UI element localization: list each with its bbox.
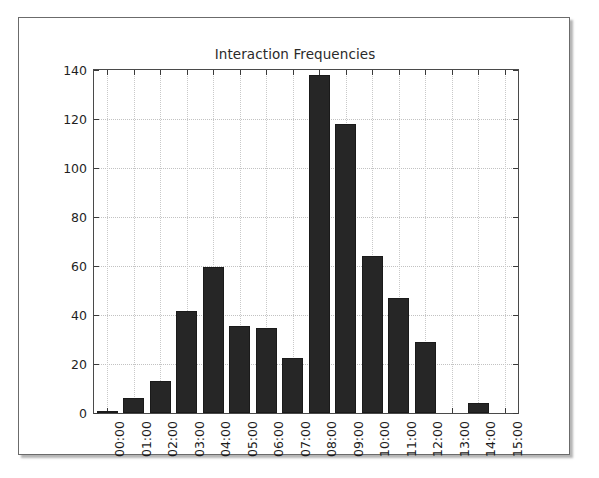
bar bbox=[97, 411, 118, 413]
plot-area: 020406080100120140 00:0001:0002:0003:000… bbox=[93, 69, 519, 414]
y-tick-mark-right bbox=[513, 266, 518, 267]
x-tick-mark-top bbox=[505, 70, 506, 75]
gridline-horizontal bbox=[94, 315, 518, 316]
x-tick-label: 03:00 bbox=[192, 421, 207, 457]
gridline-vertical bbox=[452, 70, 453, 413]
x-tick-label: 12:00 bbox=[430, 421, 445, 457]
bar bbox=[415, 342, 436, 413]
x-tick-label: 15:00 bbox=[510, 421, 525, 457]
gridline-horizontal bbox=[94, 119, 518, 120]
gridline-horizontal bbox=[94, 266, 518, 267]
y-tick-label: 80 bbox=[71, 210, 87, 225]
bar bbox=[229, 326, 250, 413]
x-tick-label: 13:00 bbox=[457, 421, 472, 457]
y-tick-label: 100 bbox=[63, 161, 87, 176]
x-tick-label: 08:00 bbox=[324, 421, 339, 457]
x-tick-label: 04:00 bbox=[218, 421, 233, 457]
x-tick-mark-top bbox=[478, 70, 479, 75]
x-tick-mark-top bbox=[425, 70, 426, 75]
x-tick-mark-top bbox=[240, 70, 241, 75]
y-tick-mark-right bbox=[513, 70, 518, 71]
x-tick-mark-top bbox=[160, 70, 161, 75]
gridline-vertical bbox=[160, 70, 161, 413]
x-tick-mark-top bbox=[372, 70, 373, 75]
y-tick-mark bbox=[94, 70, 99, 71]
x-tick-label: 01:00 bbox=[139, 421, 154, 457]
y-tick-label: 40 bbox=[71, 308, 87, 323]
x-tick-mark-top bbox=[107, 70, 108, 75]
y-tick-mark-right bbox=[513, 364, 518, 365]
y-tick-mark bbox=[94, 168, 99, 169]
gridline-vertical bbox=[505, 70, 506, 413]
x-tick-mark bbox=[505, 408, 506, 413]
y-tick-mark bbox=[94, 119, 99, 120]
y-tick-mark-right bbox=[513, 168, 518, 169]
y-tick-mark bbox=[94, 266, 99, 267]
bar bbox=[256, 328, 277, 413]
figure-frame: Interaction Frequencies 0204060801001201… bbox=[18, 17, 570, 455]
y-tick-label: 120 bbox=[63, 112, 87, 127]
x-tick-mark-top bbox=[187, 70, 188, 75]
y-tick-mark-right bbox=[513, 413, 518, 414]
y-tick-mark-right bbox=[513, 217, 518, 218]
x-tick-label: 09:00 bbox=[351, 421, 366, 457]
gridline-horizontal bbox=[94, 168, 518, 169]
bar bbox=[468, 403, 489, 413]
y-tick-mark bbox=[94, 217, 99, 218]
y-tick-mark-right bbox=[513, 119, 518, 120]
x-tick-mark-top bbox=[266, 70, 267, 75]
gridline-horizontal bbox=[94, 364, 518, 365]
scanned-page: Interaction Frequencies 0204060801001201… bbox=[0, 0, 599, 478]
x-tick-label: 05:00 bbox=[245, 421, 260, 457]
x-tick-label: 11:00 bbox=[404, 421, 419, 457]
gridline-vertical bbox=[107, 70, 108, 413]
x-tick-label: 06:00 bbox=[271, 421, 286, 457]
y-tick-mark-right bbox=[513, 315, 518, 316]
bar bbox=[309, 75, 330, 413]
bar bbox=[176, 311, 197, 413]
x-tick-mark-top bbox=[134, 70, 135, 75]
x-tick-mark-top bbox=[346, 70, 347, 75]
y-tick-label: 140 bbox=[63, 63, 87, 78]
bar bbox=[203, 267, 224, 413]
y-tick-mark bbox=[94, 413, 99, 414]
x-tick-label: 02:00 bbox=[165, 421, 180, 457]
x-tick-label: 07:00 bbox=[298, 421, 313, 457]
gridline-horizontal bbox=[94, 217, 518, 218]
x-tick-mark-top bbox=[213, 70, 214, 75]
x-tick-mark-top bbox=[293, 70, 294, 75]
gridline-vertical bbox=[134, 70, 135, 413]
gridline-vertical bbox=[478, 70, 479, 413]
bar bbox=[388, 298, 409, 413]
y-tick-label: 20 bbox=[71, 357, 87, 372]
x-tick-mark bbox=[452, 408, 453, 413]
bar bbox=[335, 124, 356, 413]
x-tick-mark-top bbox=[452, 70, 453, 75]
bar bbox=[362, 256, 383, 413]
bar bbox=[123, 398, 144, 413]
bar bbox=[150, 381, 171, 413]
bar bbox=[282, 358, 303, 413]
x-tick-label: 00:00 bbox=[112, 421, 127, 457]
y-tick-mark bbox=[94, 315, 99, 316]
y-tick-label: 0 bbox=[79, 406, 87, 421]
bar-chart-figure: Interaction Frequencies 0204060801001201… bbox=[19, 18, 571, 456]
x-tick-mark-top bbox=[399, 70, 400, 75]
y-tick-mark bbox=[94, 364, 99, 365]
y-tick-label: 60 bbox=[71, 259, 87, 274]
x-tick-label: 10:00 bbox=[377, 421, 392, 457]
x-tick-label: 14:00 bbox=[483, 421, 498, 457]
chart-title: Interaction Frequencies bbox=[19, 46, 571, 62]
